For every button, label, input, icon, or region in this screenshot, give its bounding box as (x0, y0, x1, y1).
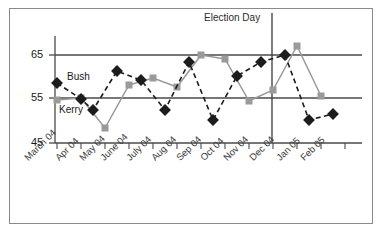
kerry-point (126, 82, 133, 89)
bush-point (327, 108, 339, 120)
kerry-point (294, 43, 301, 50)
chart-screenshot: 65 55 45 Bush Kerry Election Day March 0… (0, 0, 383, 233)
ytick-label-55: 55 (31, 91, 43, 103)
series-label-bush: Bush (67, 71, 90, 82)
kerry-point (102, 125, 109, 132)
kerry-point (270, 87, 277, 94)
kerry-point (198, 52, 205, 59)
bush-point (255, 56, 267, 68)
kerry-point (54, 97, 61, 104)
bush-point (303, 114, 315, 126)
poll-trend-chart (0, 0, 383, 233)
series-label-kerry: Kerry (59, 104, 83, 115)
kerry-point (150, 75, 157, 82)
ytick-label-65: 65 (31, 48, 43, 60)
kerry-point (222, 56, 229, 63)
bush-point (207, 114, 219, 126)
kerry-point (246, 98, 253, 105)
election-day-label: Election Day (204, 12, 260, 23)
kerry-point (318, 93, 325, 100)
bush-point (111, 65, 123, 77)
gridlines (55, 55, 362, 98)
bush-point (51, 77, 63, 89)
bush-points (51, 49, 339, 126)
series-bush (51, 49, 339, 126)
bush-point (87, 104, 99, 116)
